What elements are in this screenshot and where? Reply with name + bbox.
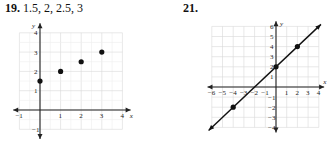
x-tick-label: 4 (317, 89, 321, 97)
y-tick-label: −1 (32, 126, 40, 134)
data-point (58, 69, 63, 74)
y-tick-label: 5 (270, 33, 274, 41)
x-axis-label: x (322, 78, 327, 86)
x-tick-label: 2 (79, 112, 83, 120)
arrow-up-icon (38, 23, 43, 28)
y-tick-label: −1 (268, 94, 276, 102)
y-tick-label: 3 (270, 53, 274, 61)
chart-0: xy−11234−11234 (13, 22, 133, 139)
chart-1: xy−6−5−4−3−2−11234−4−3−2−1123456 (208, 20, 328, 132)
y-axis-label: y (279, 20, 284, 28)
y-tick-label: −3 (268, 114, 276, 122)
y-tick-label: 1 (34, 87, 38, 95)
data-point (295, 44, 300, 49)
x-tick-label: 1 (285, 89, 289, 97)
x-tick-label: −3 (240, 89, 248, 97)
x-tick-label: −5 (219, 89, 227, 97)
y-tick-label: 4 (270, 43, 274, 51)
arrow-down-icon (38, 134, 43, 139)
y-tick-label: 4 (34, 29, 38, 37)
x-tick-label: 4 (120, 112, 124, 120)
x-tick-label: −6 (208, 89, 216, 97)
data-point (273, 64, 278, 69)
y-tick-label: 6 (270, 23, 274, 31)
y-tick-label: −4 (268, 124, 276, 132)
x-tick-label: 3 (100, 112, 104, 120)
plotted-line (209, 24, 321, 130)
data-point (231, 105, 236, 110)
chart-problem-19: xy−11234−11234xy−6−5−4−3−2−11234−4−3−2−1… (0, 0, 332, 147)
y-tick-label: −2 (268, 104, 276, 112)
axes: xy (13, 22, 133, 139)
x-tick-label: 3 (306, 89, 310, 97)
x-tick-label: −4 (229, 89, 237, 97)
data-point (99, 50, 104, 55)
x-axis-label: x (129, 112, 134, 120)
data-point (37, 78, 42, 83)
x-tick-label: 2 (295, 89, 299, 97)
y-tick-label: 3 (34, 49, 38, 57)
y-tick-label: 1 (270, 73, 274, 81)
x-tick-label: 1 (59, 112, 63, 120)
data-point (79, 59, 84, 64)
x-tick-label: −1 (15, 112, 23, 120)
arrow-up-icon (274, 21, 279, 26)
y-tick-label: 2 (34, 68, 38, 76)
